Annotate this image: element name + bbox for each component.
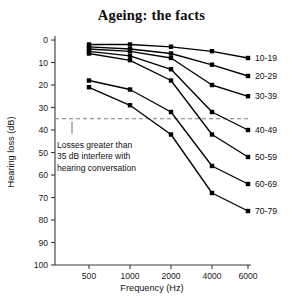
y-axis-tick-label: 30 bbox=[38, 103, 48, 113]
x-axis-ticks: 5001000200040006000 bbox=[82, 265, 258, 281]
series-label-60-69: 60-69 bbox=[255, 179, 277, 189]
data-point-60-69-1000 bbox=[128, 87, 132, 91]
data-point-30-39-6000 bbox=[246, 94, 250, 98]
series-label-20-29: 20-29 bbox=[255, 71, 277, 81]
data-point-70-79-500 bbox=[87, 85, 91, 89]
data-point-60-69-6000 bbox=[246, 182, 250, 186]
data-point-40-49-6000 bbox=[246, 128, 250, 132]
data-point-50-59-2000 bbox=[169, 78, 173, 82]
y-axis-tick-label: 100 bbox=[34, 260, 49, 270]
y-axis-tick-label: 80 bbox=[38, 215, 48, 225]
data-point-40-49-2000 bbox=[169, 67, 173, 71]
y-axis-ticks: 0102030405060708090100 bbox=[34, 35, 55, 270]
y-axis-tick-label: 40 bbox=[38, 125, 48, 135]
data-point-30-39-1000 bbox=[128, 49, 132, 53]
series-label-40-49: 40-49 bbox=[255, 125, 277, 135]
y-axis-title: Hearing loss (dB) bbox=[6, 117, 16, 188]
threshold-annotation-text: Losses greater than 35 dB interfere with… bbox=[57, 140, 179, 174]
annotation-line-1: Losses greater than bbox=[57, 140, 179, 151]
data-point-60-69-4000 bbox=[210, 164, 214, 168]
data-point-10-19-6000 bbox=[246, 56, 250, 60]
data-point-10-19-1000 bbox=[128, 42, 132, 46]
annotation-line-3: hearing conversation bbox=[57, 163, 179, 174]
x-axis-tick-label: 2000 bbox=[161, 271, 180, 281]
x-axis-tick-label: 500 bbox=[82, 271, 97, 281]
data-point-50-59-6000 bbox=[246, 155, 250, 159]
y-axis-tick-label: 50 bbox=[38, 148, 48, 158]
data-point-50-59-4000 bbox=[210, 132, 214, 136]
x-axis-title: Frequency (Hz) bbox=[120, 283, 183, 293]
data-point-50-59-1000 bbox=[128, 58, 132, 62]
series-line-30-39 bbox=[89, 49, 248, 96]
data-point-60-69-2000 bbox=[169, 110, 173, 114]
y-axis-tick-label: 20 bbox=[38, 80, 48, 90]
data-point-50-59-500 bbox=[87, 51, 91, 55]
data-point-30-39-4000 bbox=[210, 83, 214, 87]
series-labels-group: 10-1920-2930-3940-4950-5960-6970-79 bbox=[255, 53, 277, 216]
data-point-70-79-6000 bbox=[246, 209, 250, 213]
data-point-30-39-2000 bbox=[169, 56, 173, 60]
y-axis-tick-label: 70 bbox=[38, 193, 48, 203]
data-point-10-19-2000 bbox=[169, 45, 173, 49]
x-axis-tick-label: 6000 bbox=[238, 271, 257, 281]
y-axis-tick-label: 0 bbox=[43, 35, 48, 45]
series-label-50-59: 50-59 bbox=[255, 152, 277, 162]
data-point-20-29-2000 bbox=[169, 51, 173, 55]
y-axis-tick-label: 60 bbox=[38, 170, 48, 180]
data-point-40-49-4000 bbox=[210, 110, 214, 114]
series-label-30-39: 30-39 bbox=[255, 91, 277, 101]
x-axis-tick-label: 1000 bbox=[120, 271, 139, 281]
series-line-10-19 bbox=[89, 45, 248, 59]
series-label-70-79: 70-79 bbox=[255, 206, 277, 216]
annotation-line-2: 35 dB interfere with bbox=[57, 151, 179, 162]
y-axis-tick-label: 90 bbox=[38, 238, 48, 248]
x-axis-tick-label: 4000 bbox=[202, 271, 221, 281]
data-point-70-79-1000 bbox=[128, 103, 132, 107]
series-line-40-49 bbox=[89, 51, 248, 130]
data-series-group bbox=[87, 42, 250, 213]
data-point-10-19-4000 bbox=[210, 49, 214, 53]
data-point-70-79-2000 bbox=[169, 132, 173, 136]
data-point-40-49-1000 bbox=[128, 54, 132, 58]
data-point-70-79-4000 bbox=[210, 191, 214, 195]
data-point-20-29-4000 bbox=[210, 63, 214, 67]
data-point-60-69-500 bbox=[87, 78, 91, 82]
series-label-10-19: 10-19 bbox=[255, 53, 277, 63]
series-line-20-29 bbox=[89, 47, 248, 76]
data-point-20-29-6000 bbox=[246, 74, 250, 78]
chart-figure: Ageing: the facts 0102030405060708090100… bbox=[0, 0, 303, 308]
y-axis-tick-label: 10 bbox=[38, 58, 48, 68]
